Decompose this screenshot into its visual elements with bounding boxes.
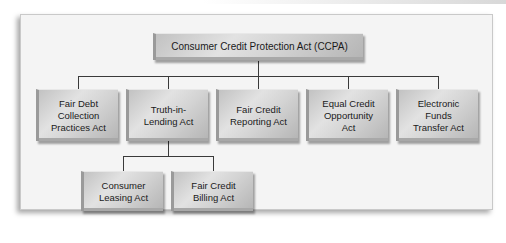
node-label: Fair Debt Collection Practices Act — [51, 98, 106, 134]
node-truth-in-lending-act: Truth-in- Lending Act — [126, 89, 208, 141]
connector-fcra — [258, 76, 259, 89]
node-label: Truth-in- Lending Act — [144, 104, 194, 128]
node-label: Fair Credit Billing Act — [191, 180, 235, 204]
connector-root-down — [258, 61, 259, 77]
node-fair-credit-billing-act: Fair Credit Billing Act — [171, 171, 253, 211]
node-label: Consumer Leasing Act — [99, 180, 148, 204]
node-ccpa-label: Consumer Credit Protection Act (CCPA) — [171, 41, 348, 53]
node-label: Electronic Funds Transfer Act — [413, 98, 464, 134]
connector-cla — [123, 156, 124, 171]
node-label: Equal Credit Opportunity Act — [322, 98, 374, 134]
node-label: Fair Credit Reporting Act — [230, 104, 287, 128]
connector-fcba — [213, 156, 214, 171]
node-ccpa: Consumer Credit Protection Act (CCPA) — [153, 33, 363, 60]
node-equal-credit-opportunity-act: Equal Credit Opportunity Act — [306, 89, 388, 141]
connector-level2-horizontal — [123, 156, 213, 157]
top-edge-gradient — [0, 0, 506, 4]
connector-efta — [438, 76, 439, 89]
connector-ecoa — [348, 76, 349, 89]
node-fair-credit-reporting-act: Fair Credit Reporting Act — [216, 89, 298, 141]
connector-tila-down — [168, 141, 169, 156]
node-fair-debt-collection-practices-act: Fair Debt Collection Practices Act — [36, 89, 118, 141]
node-consumer-leasing-act: Consumer Leasing Act — [81, 171, 163, 211]
connector-tila — [168, 76, 169, 89]
connector-fdcpa — [78, 76, 79, 89]
node-electronic-funds-transfer-act: Electronic Funds Transfer Act — [396, 89, 478, 141]
